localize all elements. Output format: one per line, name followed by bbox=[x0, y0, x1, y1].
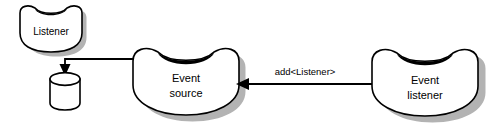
diagram-canvas: Listener Event source add<Listener> bbox=[0, 0, 500, 133]
event-listener-bean-label-line2: listener bbox=[407, 89, 443, 101]
datastore-cylinder[interactable] bbox=[50, 73, 80, 110]
listener-bean-label: Listener bbox=[33, 26, 69, 37]
datastore-cylinder-top bbox=[50, 73, 80, 86]
event-source-bean[interactable]: Event source bbox=[133, 49, 246, 122]
edge-listener-to-source[interactable]: add<Listener> bbox=[236, 66, 372, 90]
edge-listener-to-source-label: add<Listener> bbox=[275, 66, 336, 77]
event-source-bean-label-line1: Event bbox=[172, 72, 200, 84]
bean-event-diagram: Listener Event source add<Listener> bbox=[0, 0, 500, 133]
edge-source-to-datastore-line bbox=[65, 59, 140, 67]
event-listener-bean[interactable]: Event listener bbox=[372, 50, 486, 123]
event-listener-bean-label-line1: Event bbox=[411, 74, 439, 86]
listener-bean[interactable]: Listener bbox=[20, 6, 87, 57]
event-source-bean-label-line2: source bbox=[169, 87, 202, 99]
